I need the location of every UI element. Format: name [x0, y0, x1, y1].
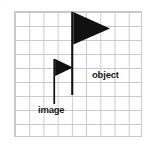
image-flag: [53, 59, 73, 104]
image-label: image: [38, 105, 64, 115]
object-flag: [71, 12, 110, 95]
object-label: object: [92, 70, 119, 80]
image-flag-banner: [55, 59, 73, 76]
object-flag-banner: [73, 12, 110, 45]
image-flag-pole: [53, 59, 55, 104]
flag-shapes-layer: [0, 0, 152, 143]
object-image-figure: ○ object image: [0, 0, 152, 143]
object-flag-pole: [71, 12, 73, 95]
